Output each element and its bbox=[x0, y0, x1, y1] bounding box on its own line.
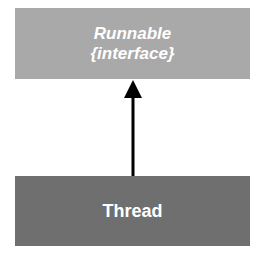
thread-class-name: Thread bbox=[102, 201, 162, 222]
arrow-head-icon bbox=[124, 80, 142, 98]
runnable-interface-name: Runnable bbox=[94, 24, 171, 44]
runnable-interface-box: Runnable {interface} bbox=[15, 8, 250, 79]
runnable-interface-stereotype: {interface} bbox=[90, 44, 174, 64]
thread-class-box: Thread bbox=[15, 176, 250, 246]
